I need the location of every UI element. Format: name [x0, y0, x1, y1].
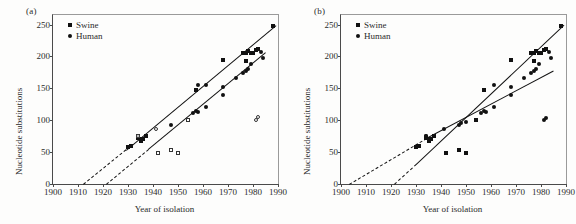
x-tick-label: 1970	[219, 187, 237, 197]
data-point	[186, 118, 190, 122]
data-point	[129, 144, 133, 148]
data-point	[444, 151, 448, 155]
data-point	[259, 50, 263, 54]
data-point	[244, 59, 248, 63]
x-tick-label: 1990	[269, 187, 287, 197]
data-point	[509, 58, 513, 62]
x-axis-title: Year of isolation	[340, 204, 565, 214]
data-point	[474, 118, 478, 122]
x-tick-label: 1920	[382, 187, 400, 197]
data-point	[261, 56, 265, 60]
panel-label-a: (a)	[26, 6, 37, 16]
x-tick-label: 1920	[94, 187, 112, 197]
panel-label-b: (b)	[314, 6, 325, 16]
x-tick-label: 1950	[169, 187, 187, 197]
data-point	[464, 120, 468, 124]
legend-b: SwineHuman	[356, 19, 391, 41]
data-point	[559, 24, 563, 28]
data-point	[204, 105, 208, 109]
data-point	[196, 83, 200, 87]
y-tick-label: 150	[37, 83, 51, 93]
y-tick-label: 150	[325, 83, 339, 93]
x-tick-label: 1950	[457, 187, 475, 197]
human-marker-icon	[68, 34, 72, 38]
data-point	[424, 134, 428, 138]
panel-b: (b)Nucleotide substitutionsYear of isola…	[288, 0, 576, 224]
x-tick-label: 1940	[432, 187, 450, 197]
trendline-swine-regression	[126, 25, 277, 151]
y-tick-label: 250	[325, 20, 339, 30]
x-tick-label: 1960	[482, 187, 500, 197]
x-tick-label: 1930	[119, 187, 137, 197]
panel-a: (a)Nucleotide substitutionsYear of isola…	[0, 0, 288, 224]
x-tick-label: 1940	[144, 187, 162, 197]
data-point	[547, 50, 551, 54]
figure-container: (a)Nucleotide substitutionsYear of isola…	[0, 0, 576, 224]
x-tick-label: 1980	[244, 187, 262, 197]
legend-a: SwineHuman	[68, 19, 103, 41]
y-tick-label: 200	[325, 51, 339, 61]
x-tick-label: 1970	[507, 187, 525, 197]
trendline-human-extrapolation	[106, 149, 149, 185]
legend-label: Swine	[364, 20, 387, 30]
data-point	[509, 93, 513, 97]
data-point	[144, 134, 148, 138]
data-point	[246, 67, 250, 71]
x-tick-label: 1910	[357, 187, 375, 197]
data-point	[417, 144, 421, 148]
data-point	[522, 76, 526, 80]
data-point	[492, 83, 496, 87]
data-point	[256, 115, 260, 119]
x-tick-label: 1900	[332, 187, 350, 197]
data-point	[464, 151, 468, 155]
y-tick-label: 50	[41, 147, 50, 157]
data-point	[234, 76, 238, 80]
data-point	[154, 127, 158, 131]
data-point	[442, 127, 446, 131]
x-tick-label: 1960	[194, 187, 212, 197]
data-point	[432, 134, 436, 138]
data-point	[196, 110, 200, 114]
data-point	[482, 88, 486, 92]
x-tick-label: 1990	[557, 187, 575, 197]
legend-item-swine: Swine	[356, 19, 391, 30]
trendline-swine-extrapolation	[394, 164, 417, 185]
data-point	[457, 148, 461, 152]
data-point	[484, 110, 488, 114]
y-axis-title: Nucleotide substitutions	[14, 88, 24, 175]
y-tick-label: 200	[37, 51, 51, 61]
x-tick-label: 1900	[44, 187, 62, 197]
legend-label: Swine	[76, 20, 99, 30]
human-marker-icon	[356, 34, 360, 38]
y-tick-mark	[338, 152, 341, 153]
x-tick-label: 1980	[532, 187, 550, 197]
data-point	[532, 59, 536, 63]
x-tick-label: 1910	[69, 187, 87, 197]
legend-item-human: Human	[356, 30, 391, 41]
data-point	[459, 121, 463, 125]
y-tick-label: 100	[325, 115, 339, 125]
legend-item-swine: Swine	[68, 19, 103, 30]
data-point	[136, 134, 140, 138]
y-tick-mark	[50, 152, 53, 153]
data-point	[509, 85, 513, 89]
legend-label: Human	[76, 31, 103, 41]
y-tick-label: 100	[37, 115, 51, 125]
data-point	[534, 67, 538, 71]
y-tick-label: 250	[37, 20, 51, 30]
legend-item-human: Human	[68, 30, 103, 41]
swine-marker-icon	[68, 23, 72, 27]
data-point	[169, 123, 173, 127]
x-tick-label: 1930	[407, 187, 425, 197]
y-axis-title: Nucleotide substitutions	[302, 88, 312, 175]
data-point	[221, 85, 225, 89]
data-point	[221, 58, 225, 62]
data-point	[204, 83, 208, 87]
trendline-swine-extrapolation	[83, 150, 126, 185]
swine-marker-icon	[356, 23, 360, 27]
legend-label: Human	[364, 31, 391, 41]
data-point	[492, 105, 496, 109]
data-point	[194, 88, 198, 92]
data-point	[169, 148, 173, 152]
data-point	[537, 62, 541, 66]
